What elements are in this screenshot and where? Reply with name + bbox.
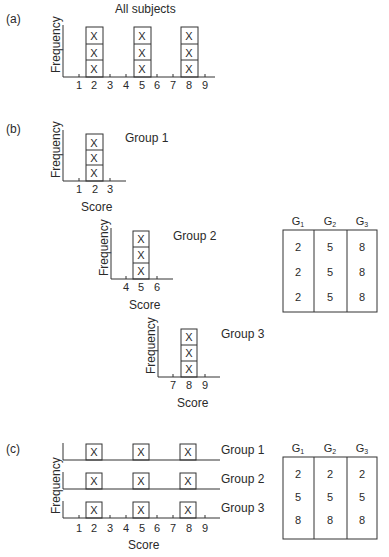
svg-text:Group 2: Group 2 [221,472,265,486]
svg-text:8: 8 [186,522,192,534]
svg-text:1: 1 [76,79,82,91]
svg-text:G1: G1 [292,215,305,228]
svg-text:3: 3 [107,79,113,91]
svg-text:1: 1 [76,183,82,195]
svg-text:X: X [137,446,145,458]
svg-text:5: 5 [327,291,333,303]
svg-text:4: 4 [123,281,129,293]
svg-text:Frequency: Frequency [97,219,111,276]
svg-text:X: X [185,63,193,75]
svg-text:4: 4 [123,79,129,91]
svg-text:X: X [137,249,145,261]
panel-c-label: (c) [6,442,20,456]
svg-text:9: 9 [202,522,208,534]
svg-text:G2: G2 [324,215,337,228]
svg-text:X: X [90,475,98,487]
svg-text:X: X [184,446,192,458]
svg-text:X: X [90,47,98,59]
panel-b-label: (b) [6,122,21,136]
svg-text:X: X [138,63,146,75]
svg-text:5: 5 [327,491,333,503]
svg-text:2: 2 [359,468,365,480]
svg-text:X: X [185,47,193,59]
svg-text:X: X [137,233,145,245]
svg-text:5: 5 [327,266,333,278]
svg-text:X: X [184,504,192,516]
a-y-label: Frequency [49,16,63,73]
group-1-label: Group 1 [125,131,169,145]
svg-text:5: 5 [327,241,333,253]
svg-text:X: X [138,30,146,42]
svg-text:2: 2 [295,468,301,480]
svg-text:2: 2 [91,522,97,534]
svg-text:X: X [90,30,98,42]
svg-text:2: 2 [91,79,97,91]
svg-text:7: 7 [170,79,176,91]
svg-text:Group 3: Group 3 [221,501,265,515]
svg-text:5: 5 [295,491,301,503]
group-2-label: Group 2 [173,229,217,243]
svg-text:2: 2 [92,183,98,195]
svg-text:7: 7 [170,522,176,534]
svg-text:X: X [185,347,193,359]
svg-text:X: X [90,63,98,75]
svg-text:Score: Score [81,200,113,214]
svg-text:Score: Score [129,298,161,312]
svg-text:2: 2 [295,266,301,278]
svg-text:2: 2 [295,291,301,303]
group-3-label: Group 3 [221,327,265,341]
svg-text:5: 5 [139,79,145,91]
svg-text:X: X [137,504,145,516]
svg-text:5: 5 [138,281,144,293]
svg-text:G1: G1 [292,442,305,455]
svg-text:8: 8 [295,514,301,526]
svg-text:X: X [185,30,193,42]
svg-text:Frequency: Frequency [49,457,63,514]
svg-text:X: X [137,475,145,487]
svg-text:1: 1 [76,522,82,534]
svg-text:X: X [90,152,98,164]
svg-text:Score: Score [128,538,160,552]
svg-text:X: X [184,475,192,487]
svg-text:4: 4 [123,522,129,534]
svg-text:8: 8 [359,291,365,303]
svg-text:G2: G2 [324,442,337,455]
svg-text:Frequency: Frequency [144,317,158,374]
svg-text:9: 9 [202,79,208,91]
svg-text:6: 6 [154,281,160,293]
svg-text:8: 8 [186,379,192,391]
svg-text:G3: G3 [356,442,369,455]
svg-text:2: 2 [327,468,333,480]
svg-text:5: 5 [139,522,145,534]
svg-text:3: 3 [107,183,113,195]
svg-text:X: X [90,446,98,458]
svg-text:Group 1: Group 1 [221,443,265,457]
svg-text:X: X [185,331,193,343]
svg-text:8: 8 [359,266,365,278]
svg-text:6: 6 [154,79,160,91]
svg-text:X: X [185,363,193,375]
svg-text:X: X [137,265,145,277]
svg-text:6: 6 [154,522,160,534]
svg-text:9: 9 [202,379,208,391]
svg-text:8: 8 [327,514,333,526]
svg-text:2: 2 [295,241,301,253]
svg-text:X: X [90,167,98,179]
svg-text:Score: Score [177,396,209,410]
svg-text:8: 8 [186,79,192,91]
svg-text:8: 8 [359,241,365,253]
panel-a-title: All subjects [115,2,176,16]
svg-text:X: X [90,504,98,516]
svg-text:7: 7 [170,379,176,391]
svg-text:G3: G3 [356,215,369,228]
svg-text:5: 5 [359,491,365,503]
panel-a-label: (a) [6,12,21,26]
svg-text:8: 8 [359,514,365,526]
svg-text:3: 3 [107,522,113,534]
svg-text:X: X [138,47,146,59]
figure: (a) All subjects Frequency XXX XXX XXX 1… [0,0,389,557]
svg-text:X: X [90,137,98,149]
svg-text:Frequency: Frequency [49,121,63,178]
